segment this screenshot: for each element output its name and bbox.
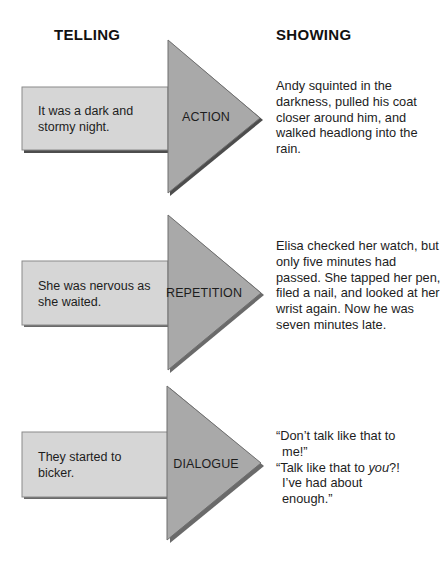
dialogue-text: “Don’t talk like that to me!” — [276, 428, 396, 459]
dialogue-text: “Talk like that to — [276, 460, 368, 475]
row-dialogue: They started to bicker. DIALOGUE “Don’t … — [0, 0, 446, 569]
technique-label: DIALOGUE — [168, 457, 244, 472]
dialogue-line: “Don’t talk like that to me!” — [276, 428, 416, 460]
telling-statement: They started to bicker. — [38, 450, 148, 481]
showing-example-dialogue: “Don’t talk like that to me!” “Talk like… — [276, 428, 416, 507]
dialogue-line: “Talk like that to you?! I’ve had about … — [276, 460, 416, 507]
dialogue-emphasis: you — [368, 460, 389, 475]
